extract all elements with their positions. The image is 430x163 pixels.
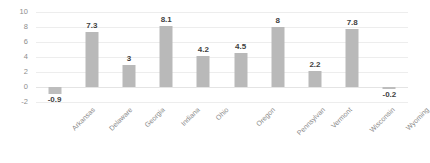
y-axis-tick-label: 6 bbox=[0, 37, 28, 46]
y-axis-tick-label: 2 bbox=[0, 67, 28, 76]
bar-value-label: -0.9 bbox=[48, 95, 62, 104]
x-axis-category-label: Wisconsin bbox=[369, 106, 397, 134]
x-axis-category-label: Georgia bbox=[143, 106, 166, 129]
x-axis-category-label: Wyoming bbox=[405, 106, 430, 132]
x-axis-category-labels: ArkansasDelawareGeorgiaIndianaOhioOregon… bbox=[36, 0, 408, 61]
x-axis-category-label: Arkansas bbox=[70, 106, 96, 132]
y-axis-tick-label: 8 bbox=[0, 22, 28, 31]
bar bbox=[308, 71, 321, 88]
x-axis-category-label: Oregon bbox=[254, 106, 275, 127]
x-axis-category-label: Delaware bbox=[107, 106, 133, 132]
gridline bbox=[36, 102, 408, 103]
x-axis-category-label: Pennsylvan bbox=[295, 106, 326, 137]
x-axis-category-label: Ohio bbox=[215, 106, 230, 121]
y-axis-tick-label: 4 bbox=[0, 52, 28, 61]
bar bbox=[122, 65, 135, 88]
y-axis-tick-label: -2 bbox=[0, 97, 28, 106]
bar bbox=[383, 87, 396, 89]
bar-value-label: -0.2 bbox=[382, 90, 396, 99]
y-axis-tick-label: 10 bbox=[0, 7, 28, 16]
x-axis-category-label: Vermont bbox=[330, 106, 353, 129]
y-axis-tick-label: 0 bbox=[0, 82, 28, 91]
x-axis-category-label: Indiana bbox=[180, 106, 201, 127]
bar bbox=[48, 87, 61, 94]
